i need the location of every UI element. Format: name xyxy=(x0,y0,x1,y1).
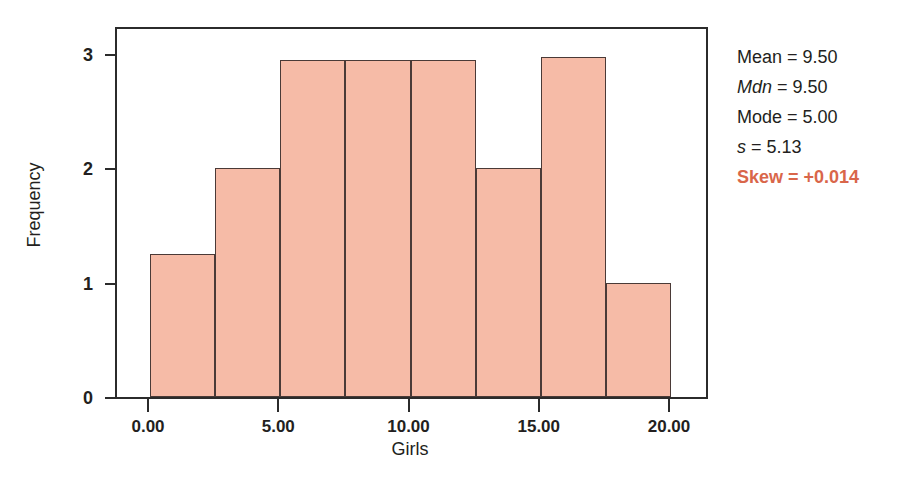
x-tick-label: 20.00 xyxy=(619,418,719,435)
y-tick-label: 1 xyxy=(53,275,93,293)
x-tick-label: 15.00 xyxy=(489,418,589,435)
histogram-bar xyxy=(215,168,280,397)
y-tick-mark xyxy=(105,168,116,170)
histogram-bar xyxy=(411,60,476,397)
histogram-bar xyxy=(280,60,345,397)
statistics-panel: Mean = 9.50Mdn = 9.50Mode = 5.00s = 5.13… xyxy=(737,42,911,192)
stat-value: 9.50 xyxy=(793,77,828,97)
stat-line: Mean = 9.50 xyxy=(737,42,911,72)
stat-line: Mode = 5.00 xyxy=(737,102,911,132)
y-tick-mark xyxy=(105,397,116,399)
y-tick-mark xyxy=(105,54,116,56)
x-tick-label: 0.00 xyxy=(98,418,198,435)
stat-line: s = 5.13 xyxy=(737,132,911,162)
stat-value: +0.014 xyxy=(804,167,860,187)
stat-key: Mean xyxy=(737,47,782,67)
stat-equals-sign: = xyxy=(787,107,798,127)
x-tick-mark xyxy=(277,399,279,412)
stat-key: Skew xyxy=(737,167,783,187)
stat-value: 5.13 xyxy=(767,137,802,157)
y-axis-title: Frequency xyxy=(25,115,43,295)
y-tick-label: 2 xyxy=(53,160,93,178)
x-axis-title: Girls xyxy=(260,440,560,458)
plot-area: 0123 0.005.0010.0015.0020.00 Frequency G… xyxy=(0,0,730,492)
stat-equals-sign: = xyxy=(751,137,762,157)
stat-value: 9.50 xyxy=(803,47,838,67)
x-tick-mark xyxy=(538,399,540,412)
histogram-bar xyxy=(345,60,410,397)
x-tick-mark xyxy=(147,399,149,412)
stat-value: 5.00 xyxy=(803,107,838,127)
stat-key: Mdn xyxy=(737,77,772,97)
histogram-bar xyxy=(150,254,215,397)
y-tick-label: 0 xyxy=(53,389,93,407)
stat-key: s xyxy=(737,137,746,157)
stat-equals-sign: = xyxy=(788,167,799,187)
x-tick-mark xyxy=(408,399,410,412)
stat-equals-sign: = xyxy=(777,77,788,97)
stat-equals-sign: = xyxy=(787,47,798,67)
histogram-bar xyxy=(541,57,606,397)
x-tick-mark xyxy=(668,399,670,412)
histogram-figure: 0123 0.005.0010.0015.0020.00 Frequency G… xyxy=(0,0,911,492)
plot-frame xyxy=(115,27,708,399)
y-tick-label: 3 xyxy=(53,46,93,64)
stat-line: Mdn = 9.50 xyxy=(737,72,911,102)
stat-line-skew: Skew = +0.014 xyxy=(737,162,911,192)
histogram-bar xyxy=(606,283,671,397)
x-tick-label: 5.00 xyxy=(228,418,328,435)
y-tick-mark xyxy=(105,283,116,285)
histogram-bar xyxy=(476,168,541,397)
x-tick-label: 10.00 xyxy=(359,418,459,435)
stat-key: Mode xyxy=(737,107,782,127)
